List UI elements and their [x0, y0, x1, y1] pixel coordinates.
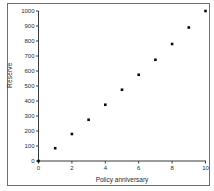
data-point — [171, 43, 174, 46]
y-tick-label: 100 — [24, 143, 35, 149]
data-point — [188, 26, 191, 29]
x-tick-label: 6 — [137, 165, 141, 171]
y-axis-title: Reserve — [6, 62, 13, 88]
scatter-chart: 010020030040050060070080090010000246810 — [0, 0, 214, 191]
y-tick-label: 0 — [31, 158, 35, 164]
y-tick-label: 400 — [24, 98, 35, 104]
y-tick-label: 600 — [24, 68, 35, 74]
y-tick-label: 1000 — [21, 8, 35, 14]
y-tick-label: 900 — [24, 23, 35, 29]
x-tick-label: 10 — [202, 165, 209, 171]
data-point — [104, 103, 107, 106]
data-point — [204, 10, 207, 13]
data-point — [54, 147, 57, 150]
x-tick-label: 4 — [104, 165, 108, 171]
data-point — [121, 88, 124, 91]
y-tick-label: 200 — [24, 128, 35, 134]
data-point — [71, 133, 74, 136]
data-point — [137, 73, 140, 76]
data-point — [87, 118, 90, 121]
y-tick-label: 500 — [24, 83, 35, 89]
data-point — [37, 160, 40, 163]
x-tick-label: 2 — [70, 165, 74, 171]
y-tick-label: 800 — [24, 38, 35, 44]
y-tick-label: 300 — [24, 113, 35, 119]
x-tick-label: 8 — [170, 165, 174, 171]
y-tick-label: 700 — [24, 53, 35, 59]
x-tick-label: 0 — [37, 165, 41, 171]
x-axis-title: Policy anniversary — [0, 176, 214, 183]
data-point — [154, 58, 157, 61]
